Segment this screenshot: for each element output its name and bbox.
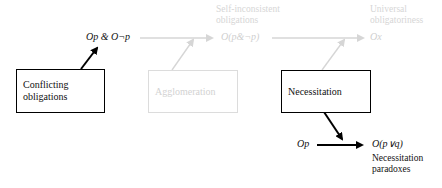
box-label-line: obligations <box>23 91 69 103</box>
agglomeration-box: Agglomeration <box>148 70 238 113</box>
label-line: obligations <box>216 15 280 26</box>
box-label-line: Agglomeration <box>155 86 216 98</box>
label-line: obligatoriness <box>370 15 423 26</box>
label-line: Self-inconsistent <box>216 4 280 15</box>
necessitation-box: Necessitation <box>281 70 371 113</box>
formula-conflict: Op & O¬p <box>86 31 130 42</box>
conflicting-obligations-box: Conflicting obligations <box>16 69 105 113</box>
formula-necessitation-premise: Op <box>297 138 309 149</box>
label-line: paradoxes <box>372 164 423 175</box>
box-label-line: Conflicting <box>23 79 69 91</box>
box-label-line: Necessitation <box>288 86 342 98</box>
arrow-necessitation-down <box>324 112 342 139</box>
formula-self-inconsistent: O(p&¬p) <box>221 31 259 42</box>
label-self-inconsistent: Self-inconsistent obligations <box>216 4 280 26</box>
arrow-agglomeration-up <box>172 40 193 70</box>
label-line: Universal <box>370 4 423 15</box>
arrow-conflict-to-formula <box>81 48 97 69</box>
arrow-necessitation-up <box>322 40 344 70</box>
formula-necessitation-result: O(p∨q) <box>372 138 403 149</box>
label-universal: Universal obligatoriness <box>370 4 423 26</box>
label-necessitation-paradoxes: Necessitation paradoxes <box>372 153 423 175</box>
formula-universal: Ox <box>370 31 382 42</box>
label-line: Necessitation <box>372 153 423 164</box>
